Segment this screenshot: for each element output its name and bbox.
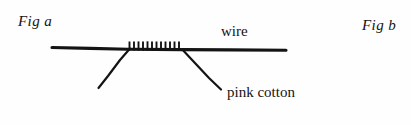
figure-caption-a: Fig a	[18, 14, 52, 29]
wire-group	[52, 48, 286, 51]
figure-container: Fig a Fig b wire pink cotton	[0, 0, 411, 125]
wire-cotton-diagram	[0, 0, 411, 125]
pink-cotton-label: pink cotton	[227, 85, 295, 100]
wire-right-segment	[182, 50, 286, 51]
figure-caption-b: Fig b	[362, 18, 396, 33]
wire-left-segment	[52, 48, 128, 50]
wire-label: wire	[221, 24, 248, 39]
cotton-right-leg	[183, 50, 221, 89]
cotton-left-leg	[99, 49, 131, 89]
pink-cotton-group	[99, 49, 222, 90]
